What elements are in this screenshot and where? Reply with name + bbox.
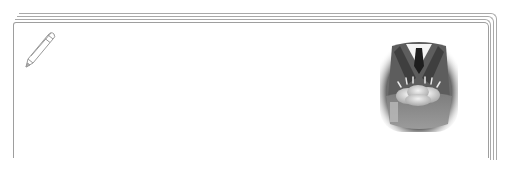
pencil-icon[interactable]: [22, 29, 56, 69]
note-card: [13, 22, 489, 158]
suit-figure-illustration: [378, 38, 460, 134]
